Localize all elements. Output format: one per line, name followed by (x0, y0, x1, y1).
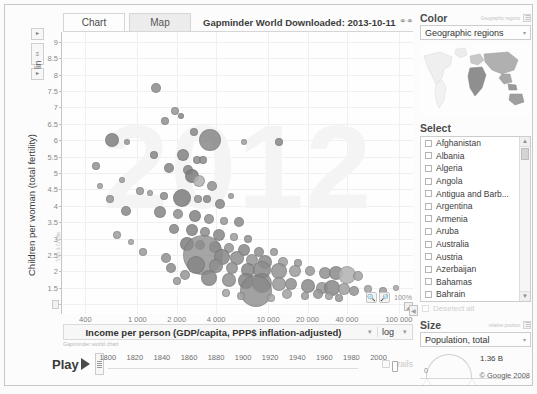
list-item[interactable]: Bahamas (421, 276, 530, 289)
bubble-datapoint[interactable] (289, 265, 301, 277)
bubble-datapoint[interactable] (106, 195, 114, 203)
bubble-datapoint[interactable] (353, 271, 363, 281)
bubble-datapoint[interactable] (228, 193, 234, 199)
list-item[interactable]: Albania (421, 150, 530, 163)
bubble-datapoint[interactable] (222, 289, 230, 297)
bubble-datapoint[interactable] (147, 190, 153, 196)
bubble-datapoint[interactable] (124, 139, 130, 145)
bubble-datapoint[interactable] (222, 273, 236, 287)
link-icon[interactable]: ⚭⚭ (399, 16, 413, 26)
bubble-datapoint[interactable] (105, 133, 119, 147)
bubble-datapoint[interactable] (393, 285, 399, 291)
bubble-datapoint[interactable] (203, 195, 211, 203)
tab-map[interactable]: Map (129, 13, 191, 32)
list-item[interactable]: Armenia (421, 213, 530, 226)
bubble-datapoint[interactable] (301, 279, 315, 293)
play-button[interactable]: Play (52, 357, 90, 372)
country-list[interactable]: AfghanistanAlbaniaAlgeriaAngolaAntigua a… (421, 137, 530, 301)
list-item[interactable]: Aruba (421, 225, 530, 238)
timeline-control[interactable]: Play 18001820184018601880190019201940196… (52, 349, 413, 379)
list-item[interactable]: Australia (421, 238, 530, 251)
bubble-datapoint[interactable] (244, 235, 252, 243)
y-scale-down-button[interactable]: ▸ (31, 68, 44, 80)
bubble-datapoint[interactable] (161, 253, 171, 263)
bubble-datapoint[interactable] (169, 224, 179, 234)
bubble-datapoint[interactable] (180, 270, 190, 280)
y-scale-up-button[interactable]: ▸ (31, 28, 44, 40)
bubble-datapoint[interactable] (150, 151, 158, 159)
bubble-datapoint[interactable] (199, 129, 221, 151)
bubble-datapoint[interactable] (121, 206, 131, 216)
bubble-datapoint[interactable] (230, 233, 238, 241)
bubble-datapoint[interactable] (301, 292, 309, 300)
y-scale-label[interactable]: lin (33, 45, 43, 69)
bubble-datapoint[interactable] (267, 294, 275, 302)
left-resize-grip[interactable] (52, 300, 59, 309)
list-item[interactable]: Argentina (421, 200, 530, 213)
bubble-datapoint[interactable] (282, 289, 292, 299)
bubble-datapoint[interactable] (275, 138, 283, 146)
bubble-datapoint[interactable] (220, 217, 228, 225)
bubble-datapoint[interactable] (139, 248, 147, 256)
timeline-track[interactable]: 1800182018401860188019001920194019601980… (108, 351, 376, 377)
country-checkbox[interactable] (425, 203, 432, 210)
country-checkbox[interactable] (425, 190, 432, 197)
size-min-handle[interactable] (423, 379, 431, 385)
scroll-down-icon[interactable]: ▼ (520, 291, 530, 301)
x-scale-label[interactable]: log (377, 327, 398, 337)
country-checkbox[interactable] (425, 291, 432, 298)
bubble-datapoint[interactable] (207, 181, 217, 191)
bubble-datapoint[interactable] (136, 187, 144, 195)
country-checkbox[interactable] (425, 228, 432, 235)
bubble-datapoint[interactable] (173, 209, 183, 219)
bubble-datapoint[interactable] (199, 156, 207, 164)
bubble-datapoint[interactable] (335, 294, 343, 302)
world-map-thumbnail[interactable] (420, 44, 531, 116)
list-item[interactable]: Austria (421, 250, 530, 263)
country-checkbox[interactable] (425, 215, 432, 222)
bubble-datapoint[interactable] (166, 263, 176, 273)
x-axis-dropdown-caret[interactable]: ▾ (363, 328, 377, 336)
country-checkbox[interactable] (425, 165, 432, 172)
list-item[interactable]: Angola (421, 175, 530, 188)
bubble-datapoint[interactable] (193, 175, 205, 187)
country-list-scrollbar[interactable]: ▲ ▼ (519, 137, 530, 301)
country-checkbox[interactable] (425, 241, 432, 248)
country-checkbox[interactable] (425, 253, 432, 260)
scrollbar-thumb[interactable] (521, 148, 529, 160)
bubble-datapoint[interactable] (325, 292, 333, 300)
bubble-datapoint[interactable] (215, 199, 225, 209)
bubble-datapoint[interactable] (313, 289, 323, 299)
scroll-up-icon[interactable]: ▲ (520, 137, 530, 147)
bubble-datapoint[interactable] (270, 248, 278, 256)
country-checkbox[interactable] (425, 178, 432, 185)
bubble-datapoint[interactable] (177, 149, 189, 161)
country-listbox[interactable]: AfghanistanAlbaniaAlgeriaAngolaAntigua a… (420, 136, 531, 302)
zoom-out-icon[interactable]: 🔎 (379, 292, 390, 303)
bubble-datapoint[interactable] (201, 270, 217, 286)
bubble-datapoint[interactable] (92, 162, 100, 170)
bubble-datapoint[interactable] (189, 210, 201, 222)
tab-chart[interactable]: Chart (63, 13, 125, 32)
bubble-datapoint[interactable] (305, 266, 315, 276)
deselect-all-checkbox[interactable] (422, 305, 429, 312)
bubble-datapoint[interactable] (204, 214, 214, 224)
color-dimension-dropdown[interactable]: Geographic regions ▾ (420, 25, 531, 40)
bubble-datapoint[interactable] (161, 117, 169, 125)
bubble-datapoint[interactable] (154, 206, 166, 218)
bubble-datapoint[interactable] (190, 128, 198, 136)
bubble-datapoint[interactable] (151, 83, 161, 93)
bubble-datapoint[interactable] (97, 183, 103, 189)
list-item[interactable]: Algeria (421, 162, 530, 175)
bubble-datapoint[interactable] (119, 177, 125, 183)
bubble-datapoint[interactable] (186, 224, 198, 236)
country-checkbox[interactable] (425, 140, 432, 147)
bubble-datapoint[interactable] (241, 139, 247, 145)
size-max-handle[interactable] (468, 379, 476, 385)
country-checkbox[interactable] (425, 278, 432, 285)
bubble-datapoint[interactable] (173, 277, 181, 285)
list-item[interactable]: Azerbaijan (421, 263, 530, 276)
bubble-datapoint[interactable] (349, 286, 359, 296)
bubble-datapoint[interactable] (178, 113, 184, 119)
bubble-datapoint[interactable] (237, 292, 245, 300)
